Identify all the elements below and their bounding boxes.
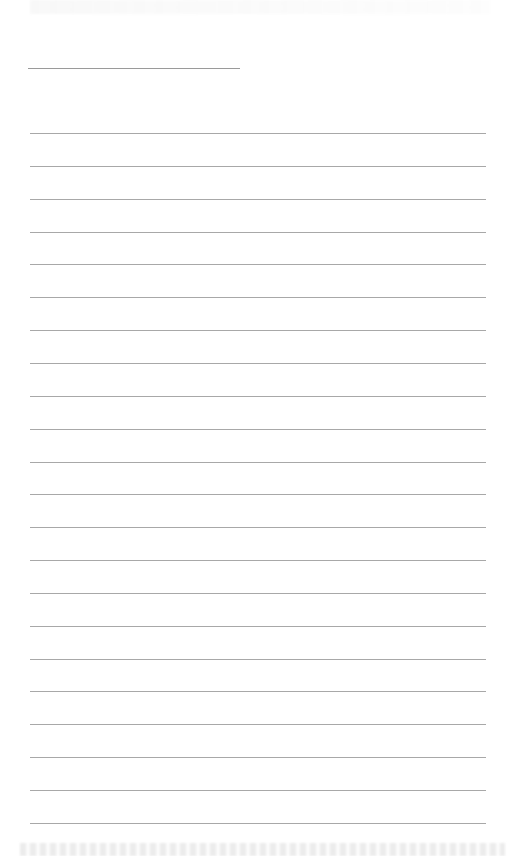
- ruled-line: [30, 691, 486, 692]
- ruled-line: [30, 724, 486, 725]
- ruled-line: [30, 133, 486, 134]
- ruled-line: [30, 363, 486, 364]
- ruled-line: [30, 166, 486, 167]
- ruled-line: [30, 264, 486, 265]
- ruled-line: [30, 232, 486, 233]
- ruled-line: [30, 462, 486, 463]
- ruled-line: [30, 396, 486, 397]
- ruled-line: [30, 429, 486, 430]
- ruled-line: [30, 560, 486, 561]
- ruled-line: [30, 757, 486, 758]
- header-line: [28, 68, 240, 69]
- ruled-line: [30, 199, 486, 200]
- ruled-line: [30, 626, 486, 627]
- ruled-line: [30, 790, 486, 791]
- ruled-line: [30, 659, 486, 660]
- ruled-line: [30, 494, 486, 495]
- ruled-line: [30, 527, 486, 528]
- bleed-through-text-bottom: [20, 843, 505, 856]
- ruled-line: [30, 297, 486, 298]
- ruled-line: [30, 593, 486, 594]
- bleed-through-text-top: [30, 0, 490, 14]
- ruled-line: [30, 823, 486, 824]
- ruled-line: [30, 330, 486, 331]
